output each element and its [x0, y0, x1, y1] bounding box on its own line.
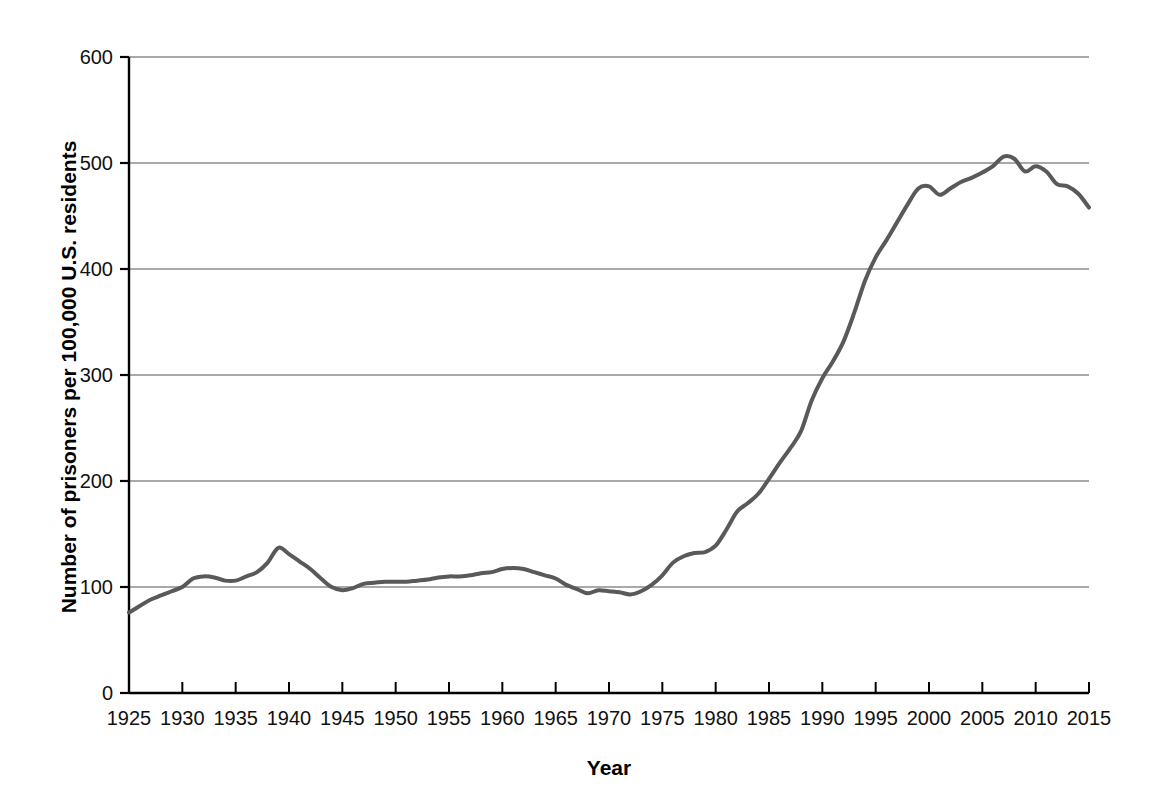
x-tick-label-1975: 1975	[640, 707, 685, 729]
x-tick-label-1965: 1965	[533, 707, 578, 729]
x-axis-tick-labels: 1925193019351940194519501955196019651970…	[107, 707, 1112, 729]
y-tick-label-0: 0	[102, 682, 113, 704]
y-tick-label-400: 400	[80, 258, 113, 280]
y-tick-label-300: 300	[80, 364, 113, 386]
x-tick-label-1950: 1950	[373, 707, 418, 729]
x-tick-label-1955: 1955	[427, 707, 472, 729]
chart-background	[0, 0, 1173, 811]
chart-container: 0100200300400500600 19251930193519401945…	[0, 0, 1173, 811]
x-axis-title: Year	[587, 756, 631, 779]
y-tick-label-600: 600	[80, 46, 113, 68]
x-tick-label-1960: 1960	[480, 707, 525, 729]
x-tick-label-1970: 1970	[587, 707, 632, 729]
y-tick-label-100: 100	[80, 576, 113, 598]
x-tick-label-1935: 1935	[213, 707, 258, 729]
prisoner-rate-line-chart: 0100200300400500600 19251930193519401945…	[0, 0, 1173, 811]
x-tick-label-1930: 1930	[160, 707, 205, 729]
x-tick-label-2015: 2015	[1067, 707, 1112, 729]
x-tick-label-1940: 1940	[267, 707, 312, 729]
x-tick-label-1985: 1985	[747, 707, 792, 729]
x-tick-label-2005: 2005	[960, 707, 1005, 729]
x-tick-label-1945: 1945	[320, 707, 365, 729]
x-tick-label-1980: 1980	[693, 707, 738, 729]
y-tick-label-200: 200	[80, 470, 113, 492]
x-tick-label-2010: 2010	[1013, 707, 1058, 729]
x-tick-label-1925: 1925	[107, 707, 152, 729]
x-tick-label-1990: 1990	[800, 707, 845, 729]
x-tick-label-2000: 2000	[907, 707, 952, 729]
y-axis-title: Number of prisoners per 100,000 U.S. res…	[57, 141, 80, 614]
x-tick-label-1995: 1995	[853, 707, 898, 729]
y-tick-label-500: 500	[80, 152, 113, 174]
